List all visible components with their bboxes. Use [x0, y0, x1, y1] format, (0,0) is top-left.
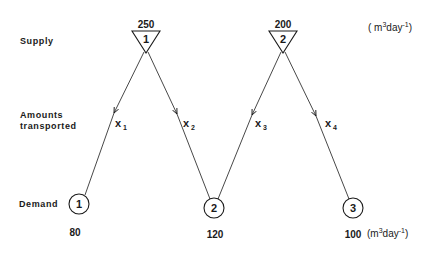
edge-label-x3: x 3	[255, 117, 267, 131]
supply-id-1: 1	[143, 33, 149, 45]
supply-id-2: 2	[280, 33, 286, 45]
supply-node-2: 200 2	[269, 19, 297, 53]
svg-text:x: x	[325, 117, 332, 129]
svg-text:x: x	[183, 117, 190, 129]
supply-units-label: ( m3day-1)	[368, 21, 412, 33]
svg-text:x: x	[115, 117, 122, 129]
demand-id-1: 1	[76, 198, 82, 210]
demand-amount-1: 80	[69, 227, 81, 238]
demand-id-2: 2	[211, 202, 217, 214]
edge-label-x4: x 4	[325, 117, 337, 131]
supply-amount-1: 250	[138, 19, 155, 30]
amounts-label-line2: transported	[20, 121, 77, 131]
edge-x4	[285, 52, 349, 199]
supply-label: Supply	[20, 36, 54, 46]
svg-text:x: x	[255, 117, 262, 129]
svg-text:(m3day-1): (m3day-1)	[367, 227, 408, 239]
demand-node-3: 3 100	[343, 198, 363, 240]
demand-node-1: 1 80	[69, 194, 89, 238]
supply-amount-2: 200	[275, 19, 292, 30]
svg-text:3: 3	[263, 124, 267, 131]
edge-label-x1: x 1	[115, 117, 127, 131]
edge-x3	[218, 52, 281, 199]
svg-text:4: 4	[333, 124, 337, 131]
edge-label-x2: x 2	[183, 117, 195, 131]
demand-id-3: 3	[350, 202, 356, 214]
svg-text:2: 2	[191, 124, 195, 131]
demand-amount-3: 100	[345, 229, 362, 240]
demand-units-label: (m3day-1)	[367, 227, 408, 239]
demand-node-2: 2 120	[204, 198, 224, 240]
demand-label: Demand	[19, 199, 58, 209]
supply-node-1: 250 1	[132, 19, 160, 53]
demand-amount-2: 120	[207, 229, 224, 240]
svg-text:( m3day-1): ( m3day-1)	[368, 21, 412, 33]
transport-network-diagram: Supply Amounts transported Demand x 1 x …	[0, 0, 440, 255]
svg-text:1: 1	[123, 124, 127, 131]
edge-x2	[148, 52, 210, 199]
amounts-label-line1: Amounts	[20, 110, 63, 120]
